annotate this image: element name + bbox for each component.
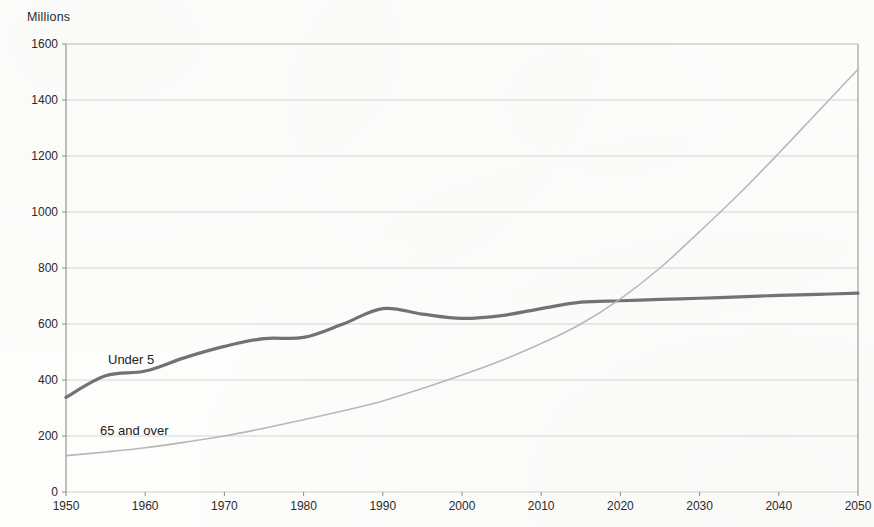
chart-svg: [66, 44, 858, 492]
x-axis-tick-labels: 1950196019701980199020002010202020302040…: [66, 499, 858, 519]
x-tick-label: 1960: [132, 499, 159, 513]
y-tick-label: 200: [38, 429, 58, 443]
y-tick-label: 1400: [31, 93, 58, 107]
y-tick-label: 800: [38, 261, 58, 275]
y-tick-label: 1600: [31, 37, 58, 51]
x-tick-label: 2010: [528, 499, 555, 513]
series-line-65-and-over: [66, 69, 858, 455]
y-tick-label: 400: [38, 373, 58, 387]
plot-area: [66, 44, 858, 492]
x-tick-label: 1980: [290, 499, 317, 513]
x-tick-label: 1990: [369, 499, 396, 513]
x-tick-label: 2050: [845, 499, 872, 513]
y-axis-tick-labels: 02004006008001000120014001600: [0, 44, 58, 492]
x-tick-label: 2030: [686, 499, 713, 513]
series-annotation-1: Under 5: [108, 352, 154, 367]
x-tick-label: 2000: [449, 499, 476, 513]
y-tick-label: 600: [38, 317, 58, 331]
y-tick-label: 1200: [31, 149, 58, 163]
x-tick-label: 2040: [765, 499, 792, 513]
y-tick-label: 1000: [31, 205, 58, 219]
y-tick-label: 0: [51, 485, 58, 499]
x-tick-label: 2020: [607, 499, 634, 513]
series-annotation-2: 65 and over: [100, 423, 169, 438]
x-tick-label: 1970: [211, 499, 238, 513]
x-tick-label: 1950: [53, 499, 80, 513]
series-line-under-5: [66, 293, 858, 397]
y-axis-unit-label: Millions: [27, 10, 70, 24]
chart-page: Millions 02004006008001000120014001600 1…: [0, 0, 874, 527]
